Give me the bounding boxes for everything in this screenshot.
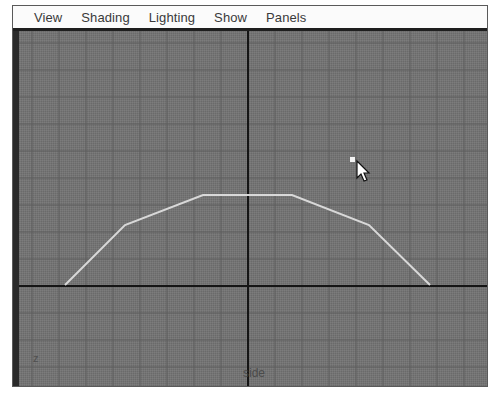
menu-view[interactable]: View [34,10,62,25]
viewport-panel: View Shading Lighting Show Panels [12,5,488,387]
menu-lighting[interactable]: Lighting [149,10,195,25]
viewport-background [19,31,487,386]
panel-menu-bar: View Shading Lighting Show Panels [13,6,487,31]
selected-control-point[interactable] [350,157,355,162]
menu-panels[interactable]: Panels [266,10,306,25]
menu-shading[interactable]: Shading [81,10,129,25]
axis-indicator-label: z [33,352,39,364]
side-viewport[interactable]: z side [13,31,487,386]
viewport-canvas[interactable] [19,31,487,386]
camera-name-label: side [243,366,265,380]
menu-show[interactable]: Show [214,10,247,25]
